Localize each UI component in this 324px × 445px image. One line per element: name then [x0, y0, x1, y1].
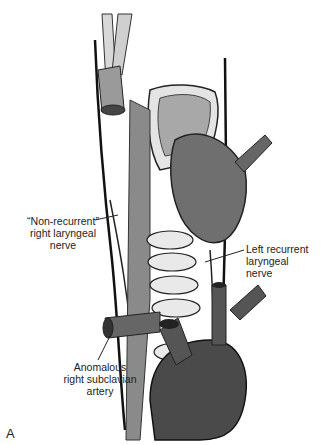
label-line: nerve: [18, 239, 108, 251]
label-line: right laryngeal: [18, 227, 108, 239]
label-anomalous-subclavian: Anomalous right subclavian artery: [50, 361, 150, 397]
label-line: laryngeal: [246, 255, 324, 267]
label-line: Anomalous: [50, 361, 150, 373]
label-line: right subclavian: [50, 373, 150, 385]
label-line: “Non-recurrent”: [18, 215, 108, 227]
label-line: artery: [50, 385, 150, 397]
panel-label: A: [6, 426, 15, 441]
label-line: nerve: [246, 267, 324, 279]
label-non-recurrent-nerve: “Non-recurrent” right laryngeal nerve: [18, 215, 108, 251]
label-line: Left recurrent: [246, 243, 324, 255]
label-left-recurrent-nerve: Left recurrent laryngeal nerve: [246, 243, 324, 279]
